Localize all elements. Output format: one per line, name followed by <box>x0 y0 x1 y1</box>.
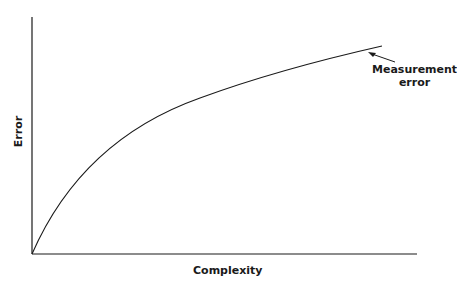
annotation-line-1: Measurement <box>372 63 457 76</box>
annotation-line-2: error <box>372 76 457 89</box>
curve-annotation: Measurement error <box>372 63 457 89</box>
x-axis-label: Complexity <box>193 264 263 277</box>
y-axis-label: Error <box>12 112 25 152</box>
arrowhead-icon <box>368 52 376 57</box>
annotation-arrow-line <box>372 54 395 62</box>
error-curve <box>32 46 382 254</box>
